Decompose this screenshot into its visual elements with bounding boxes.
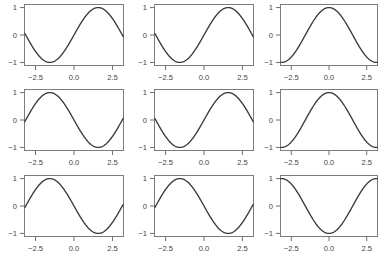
y-tick-label: 1 xyxy=(143,174,147,183)
x-tick-label: −2.5 xyxy=(158,73,173,82)
x-tick-label: −2.5 xyxy=(28,73,43,82)
x-tick-label: 2.5 xyxy=(361,244,372,253)
x-tick-label: 2.5 xyxy=(107,73,118,82)
y-tick-label: 1 xyxy=(143,3,147,12)
x-tick-label: 0.0 xyxy=(199,158,210,167)
x-tick-label: 2.5 xyxy=(237,244,248,253)
y-tick-label: 1 xyxy=(143,88,147,97)
x-tick-label: 2.5 xyxy=(237,73,248,82)
y-tick-label: 1 xyxy=(13,174,17,183)
panel-frame xyxy=(281,176,378,237)
y-tick-label: −1 xyxy=(264,143,273,152)
y-tick-label: 1 xyxy=(269,88,273,97)
x-tick-label: −2.5 xyxy=(284,158,299,167)
x-tick-label: 2.5 xyxy=(237,158,248,167)
panel-frame xyxy=(281,90,378,151)
y-tick-label: 0 xyxy=(143,116,147,125)
y-tick-label: 1 xyxy=(269,174,273,183)
y-tick-label: 1 xyxy=(269,3,273,12)
y-tick-label: −1 xyxy=(138,229,147,238)
x-tick-label: −2.5 xyxy=(284,73,299,82)
x-tick-label: 2.5 xyxy=(107,244,118,253)
y-tick-label: −1 xyxy=(8,143,17,152)
x-tick-label: −2.5 xyxy=(158,158,173,167)
x-tick-label: −2.5 xyxy=(28,158,43,167)
y-tick-label: −1 xyxy=(264,229,273,238)
y-tick-label: 1 xyxy=(13,88,17,97)
y-tick-label: −1 xyxy=(8,58,17,67)
x-tick-label: 2.5 xyxy=(361,158,372,167)
panel-frame xyxy=(281,5,378,66)
y-tick-label: 0 xyxy=(13,116,17,125)
y-tick-label: −1 xyxy=(138,143,147,152)
x-tick-label: −2.5 xyxy=(284,244,299,253)
y-tick-label: 0 xyxy=(13,202,17,211)
x-tick-label: 0.0 xyxy=(69,158,80,167)
x-tick-label: 2.5 xyxy=(107,158,118,167)
y-tick-label: 0 xyxy=(269,202,273,211)
y-tick-label: 1 xyxy=(13,3,17,12)
y-tick-label: 0 xyxy=(143,202,147,211)
x-tick-label: 0.0 xyxy=(199,73,210,82)
x-tick-label: 0.0 xyxy=(199,244,210,253)
y-tick-label: 0 xyxy=(13,31,17,40)
figure-canvas: −101−2.50.02.5−101−2.50.02.5−101−2.50.02… xyxy=(0,0,387,264)
y-tick-label: 0 xyxy=(269,31,273,40)
y-tick-label: −1 xyxy=(138,58,147,67)
y-tick-label: −1 xyxy=(8,229,17,238)
x-tick-label: 0.0 xyxy=(324,158,335,167)
x-tick-label: −2.5 xyxy=(28,244,43,253)
x-tick-label: 0.0 xyxy=(69,244,80,253)
x-tick-label: 0.0 xyxy=(324,244,335,253)
x-tick-label: 2.5 xyxy=(361,73,372,82)
y-tick-label: 0 xyxy=(269,116,273,125)
x-tick-label: 0.0 xyxy=(324,73,335,82)
x-tick-label: −2.5 xyxy=(158,244,173,253)
y-tick-label: 0 xyxy=(143,31,147,40)
y-tick-label: −1 xyxy=(264,58,273,67)
x-tick-label: 0.0 xyxy=(69,73,80,82)
